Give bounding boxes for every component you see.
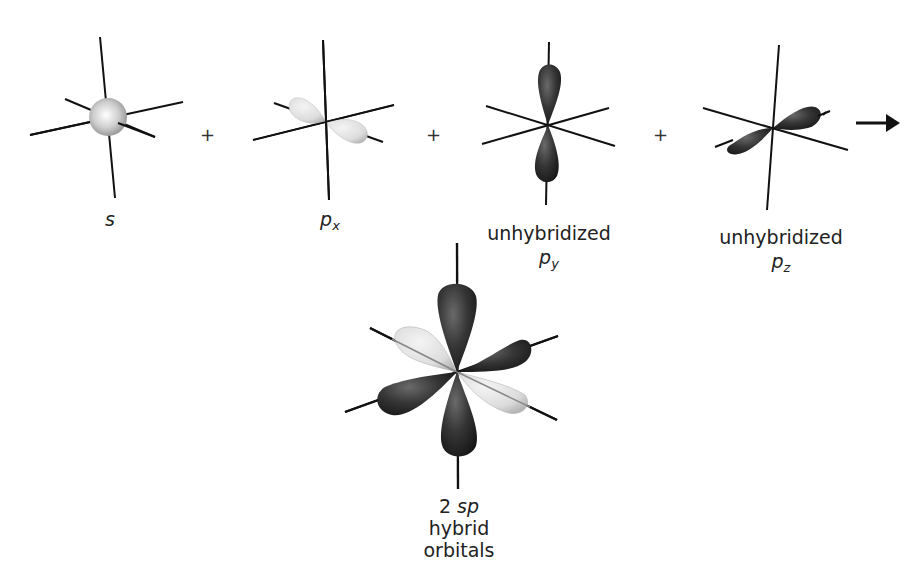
- orbital-diagram: [0, 0, 924, 576]
- s-orbital-figure: [30, 37, 183, 198]
- plus-operator-1: +: [200, 124, 215, 145]
- py-caption: unhybridized: [487, 222, 611, 244]
- px-orbital-figure: [253, 40, 394, 200]
- reaction-arrow-icon: [856, 114, 900, 132]
- s-label: s: [90, 208, 130, 230]
- px-label: px: [300, 208, 360, 237]
- pz-label: unhybridized pz: [719, 226, 843, 279]
- pz-caption: unhybridized: [719, 226, 843, 248]
- py-orbital-figure: [482, 42, 615, 205]
- py-label: unhybridized py: [487, 222, 611, 275]
- sp-hybrid-orbitals-figure: [345, 243, 558, 489]
- plus-operator-3: +: [653, 124, 668, 145]
- pz-orbital-figure: [703, 45, 848, 210]
- sp-hybrid-caption: hybrid orbitals: [392, 517, 526, 561]
- sp-hybrid-label: 2 sp hybrid orbitals: [392, 495, 526, 561]
- plus-operator-2: +: [426, 124, 441, 145]
